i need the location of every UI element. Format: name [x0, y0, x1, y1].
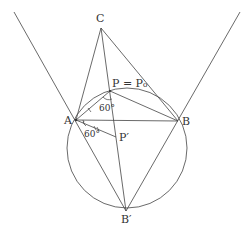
- label-C: C: [96, 12, 104, 25]
- point-A: [75, 119, 77, 121]
- circle: [67, 88, 187, 208]
- segment-AB: [76, 120, 178, 121]
- label-B: B: [182, 115, 190, 128]
- angle-label-A: 60°: [84, 129, 100, 139]
- geometry-figure: C P = P₀ A B P′ B′ 60° 60°: [0, 0, 249, 230]
- label-P: P = P₀: [112, 77, 148, 90]
- line-right-through-B: [126, 12, 240, 211]
- label-A: A: [63, 114, 73, 127]
- angle-mark-A-box: [83, 120, 86, 126]
- label-B-prime: B′: [121, 213, 132, 226]
- point-P: [109, 90, 111, 92]
- angle-label-P: 60°: [99, 103, 115, 113]
- segment-PB: [110, 91, 178, 121]
- label-P-prime: P′: [119, 131, 129, 144]
- segment-CA: [76, 28, 101, 120]
- segment-CB-prime: [101, 28, 126, 211]
